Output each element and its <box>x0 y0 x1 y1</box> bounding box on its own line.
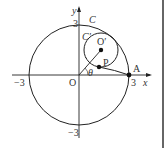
label-c-prime: C′ <box>82 31 92 42</box>
tick-y-neg3: −3 <box>68 127 79 138</box>
y-axis-arrow-icon <box>77 6 81 12</box>
y-axis-label: y <box>71 5 77 16</box>
coordinate-diagram: y 3 C C′ O′ P θ A 3 x −3 O −3 <box>0 0 168 148</box>
label-p: P <box>103 57 109 68</box>
right-border <box>162 0 164 148</box>
tick-x-neg3: −3 <box>14 77 25 88</box>
label-a: A <box>133 63 141 74</box>
label-theta: θ <box>88 67 93 78</box>
tick-x-3: 3 <box>131 77 136 88</box>
label-oprime: O′ <box>97 36 106 47</box>
tick-y-3: 3 <box>73 18 78 29</box>
label-c: C <box>89 14 96 25</box>
point-p <box>97 65 101 69</box>
trace-curve <box>99 67 129 75</box>
origin-label: O <box>69 77 76 88</box>
point-oprime <box>99 48 103 52</box>
x-axis-label: x <box>142 77 148 88</box>
